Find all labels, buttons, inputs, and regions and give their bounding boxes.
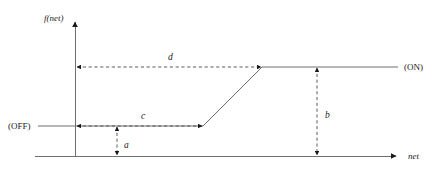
- x-axis-label: net: [408, 151, 419, 161]
- on-state-label: (ON): [404, 62, 423, 72]
- measure-d-group: d: [77, 52, 261, 67]
- measure-d-label: d: [168, 52, 173, 62]
- transfer-curve-group: (OFF) (ON): [8, 62, 423, 131]
- measure-b-label: b: [325, 110, 330, 120]
- measure-b-group: b: [317, 68, 330, 155]
- activation-function-diagram: f(net) net (OFF) (ON) d c a b: [0, 0, 435, 175]
- measure-c-label: c: [141, 111, 146, 121]
- measure-a-group: a: [117, 127, 129, 155]
- linear-ramp-segment: [203, 67, 262, 126]
- axes-group: f(net) net: [35, 13, 419, 161]
- measure-a-label: a: [124, 140, 129, 150]
- activation-function-figure: f(net) net (OFF) (ON) d c a b: [0, 0, 435, 175]
- off-state-label: (OFF): [8, 121, 31, 131]
- measure-c-group: c: [77, 111, 202, 126]
- y-axis-label: f(net): [44, 13, 64, 23]
